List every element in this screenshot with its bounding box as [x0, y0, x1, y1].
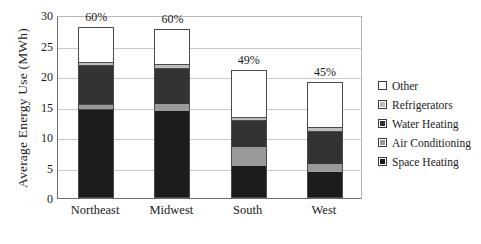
bar-value-label: 49% — [231, 53, 267, 68]
y-axis-tick-label: 15 — [25, 108, 53, 109]
bar-segment[interactable] — [155, 69, 189, 105]
legend-label: Air Conditioning — [392, 137, 471, 149]
y-axis-tick-label: 10 — [25, 138, 53, 139]
stacked-bar-chart: Average Energy Use (MWh) 051015202530 60… — [0, 0, 481, 244]
legend-swatch-icon — [378, 100, 387, 109]
legend-item[interactable]: Water Heating — [378, 114, 481, 133]
bar-group: 60% — [154, 17, 190, 198]
legend-item[interactable]: Refrigerators — [378, 95, 481, 114]
legend-swatch-icon — [378, 81, 387, 90]
y-axis-tick-label: 0 — [25, 199, 53, 200]
bar-segment[interactable] — [308, 132, 342, 164]
y-axis-tick-labels: 051015202530 — [25, 0, 53, 244]
bar-segment[interactable] — [79, 66, 113, 103]
bar-segment[interactable] — [232, 71, 266, 117]
bar-group: 45% — [307, 17, 343, 198]
bar-value-label: 45% — [307, 65, 343, 80]
bar-segment[interactable] — [79, 104, 113, 111]
legend-swatch-icon — [378, 119, 387, 128]
bar-segment[interactable] — [155, 30, 189, 64]
x-axis-tick-label: Northeast — [57, 203, 133, 218]
bar-value-label: 60% — [154, 12, 190, 27]
x-axis-tick-label: Midwest — [133, 203, 209, 218]
bar-segment[interactable] — [79, 28, 113, 62]
bar-segment[interactable] — [232, 121, 266, 147]
y-axis-tick-label: 25 — [25, 47, 53, 48]
stacked-bar[interactable] — [231, 70, 267, 198]
bar-value-label: 60% — [78, 10, 114, 25]
legend-item[interactable]: Space Heating — [378, 152, 481, 171]
bar-segment[interactable] — [232, 166, 266, 197]
legend-label: Other — [392, 80, 418, 92]
y-axis-tick-label: 5 — [25, 169, 53, 170]
legend-label: Space Heating — [392, 156, 459, 168]
legend-swatch-icon — [378, 138, 387, 147]
legend-item[interactable]: Air Conditioning — [378, 133, 481, 152]
bar-segment[interactable] — [308, 164, 342, 172]
stacked-bar[interactable] — [78, 27, 114, 198]
figure-caption — [57, 236, 417, 244]
bar-segment[interactable] — [308, 172, 342, 197]
legend-label: Refrigerators — [392, 99, 453, 111]
bar-group: 49% — [231, 17, 267, 198]
x-axis-tick-label: West — [286, 203, 362, 218]
y-axis-tick-label: 20 — [25, 77, 53, 78]
plot-area: 60%60%49%45% — [57, 16, 362, 199]
y-axis-tick-label: 30 — [25, 16, 53, 17]
legend-label: Water Heating — [392, 118, 458, 130]
chart-legend: OtherRefrigeratorsWater HeatingAir Condi… — [378, 76, 481, 171]
bar-segment[interactable] — [155, 111, 189, 197]
bar-segment[interactable] — [232, 147, 266, 166]
legend-item[interactable]: Other — [378, 76, 481, 95]
bar-segment[interactable] — [79, 110, 113, 197]
bar-group: 60% — [78, 17, 114, 198]
bar-segment[interactable] — [155, 104, 189, 111]
x-axis-tick-label: South — [210, 203, 286, 218]
bar-series-container: 60%60%49%45% — [58, 17, 361, 198]
stacked-bar[interactable] — [154, 29, 190, 198]
x-axis-tick-labels: NortheastMidwestSouthWest — [57, 203, 362, 223]
legend-swatch-icon — [378, 157, 387, 166]
bar-segment[interactable] — [308, 83, 342, 127]
stacked-bar[interactable] — [307, 82, 343, 198]
